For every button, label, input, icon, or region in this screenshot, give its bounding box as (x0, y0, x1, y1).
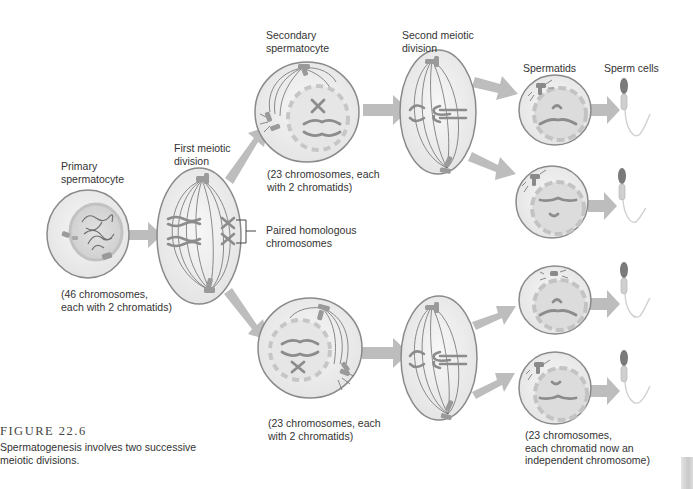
first-meiotic-division-cell (157, 168, 241, 304)
sperm-cell-1 (620, 78, 650, 136)
secondary-spermatocyte-bottom-note: (23 chromosomes, each with 2 chromatids) (268, 417, 381, 442)
arrow-spermatid-1-to-sperm (590, 96, 620, 124)
second-meiotic-division-bottom-cell (401, 296, 477, 420)
arrow-second-top-to-spermatid-1 (472, 76, 518, 100)
figure-number: FIGURE 22.6 (0, 424, 87, 439)
secondary-spermatocyte-bottom-cell (258, 298, 362, 398)
arrow-spermatid-3-to-sperm (590, 290, 620, 318)
spermatid-3-cell (519, 266, 591, 334)
sperm-cell-2 (618, 168, 646, 222)
secondary-spermatocyte-top-cell (255, 62, 359, 162)
arrow-second-bottom-to-spermatid-4 (472, 373, 515, 399)
sperm-cells-label: Sperm cells (604, 62, 659, 75)
arrow-spermatid-2-to-sperm (588, 192, 617, 220)
spermatid-2-cell (516, 166, 588, 238)
primary-spermatocyte-cell (47, 190, 129, 278)
paired-homologous-chromosomes-label: Paired homologous chromosomes (266, 224, 356, 249)
spermatid-1-cell (519, 75, 591, 145)
secondary-spermatocyte-top-note: (23 chromosomes, each with 2 chromatids) (267, 168, 380, 193)
first-meiotic-division-label: First meiotic division (174, 142, 231, 167)
arrow-second-bottom-to-spermatid-3 (472, 306, 516, 330)
arrow-spermatid-4-to-sperm (590, 377, 620, 405)
arrow-second-top-to-spermatid-2 (468, 152, 516, 180)
sperm-cell-4 (620, 350, 650, 403)
spermatids-label: Spermatids (523, 62, 576, 75)
primary-spermatocyte-note: (46 chromosomes, each with 2 chromatids) (61, 288, 172, 313)
sperm-cell-3 (620, 262, 650, 317)
secondary-spermatocyte-label: Secondary spermatocyte (266, 29, 329, 54)
second-meiotic-division-label: Second meiotic division (402, 29, 474, 54)
primary-spermatocyte-label: Primary spermatocyte (61, 160, 124, 185)
spermatid-note: (23 chromosomes, each chromatid now an i… (525, 429, 650, 467)
spermatid-4-cell (519, 352, 591, 424)
figure-caption: Spermatogenesis involves two successive … (0, 441, 200, 467)
second-meiotic-division-top-cell (400, 50, 476, 174)
page-edge-mark (681, 457, 693, 489)
